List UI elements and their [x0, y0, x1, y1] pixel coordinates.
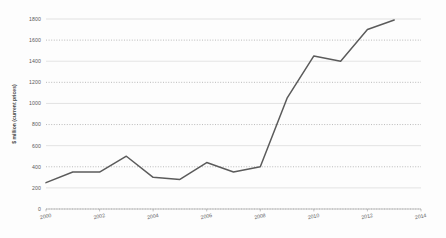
x-axis-tick-label: 2008 — [254, 212, 267, 220]
y-axis-tick-label: 200 — [32, 185, 41, 191]
y-axis-tick-label: 600 — [32, 143, 41, 149]
y-axis-tick-label: 1200 — [29, 79, 41, 85]
y-axis-tick-label: 1000 — [29, 100, 41, 106]
chart-canvas: 0200400600800100012001400160018002000200… — [0, 0, 446, 238]
y-axis-title: $ million (current prices) — [11, 84, 17, 144]
x-axis-tick-label: 2012 — [361, 212, 374, 220]
y-axis-tick-label: 1800 — [29, 16, 41, 22]
y-axis-tick-label: 1400 — [29, 58, 41, 64]
y-axis-tick-label: 400 — [32, 164, 41, 170]
x-axis-tick-label: 2014 — [414, 212, 427, 220]
y-axis-tick-label: 0 — [38, 206, 41, 212]
x-axis-tick-label: 2002 — [93, 212, 106, 220]
x-axis-tick-label: 2000 — [39, 212, 52, 220]
y-axis-tick-label: 1600 — [29, 37, 41, 43]
y-axis-tick-label: 800 — [32, 121, 41, 127]
x-axis-tick-label: 2006 — [200, 212, 213, 220]
x-axis-tick-label: 2010 — [307, 212, 320, 220]
line-chart: 0200400600800100012001400160018002000200… — [0, 0, 446, 238]
data-series-line — [46, 20, 394, 183]
x-axis-tick-label: 2004 — [146, 212, 159, 220]
